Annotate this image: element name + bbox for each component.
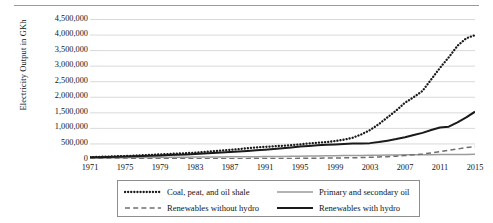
x-tick-label: 1995	[280, 163, 320, 172]
plot-svg	[90, 19, 475, 159]
legend-item[interactable]: Primary and secondary oil	[276, 183, 409, 200]
y-tick-label: 2,000,000	[28, 92, 88, 100]
legend-item-label: Primary and secondary oil	[319, 187, 409, 197]
legend-item[interactable]: Renewables without hydro	[124, 199, 259, 216]
legend-item-label: Renewables with hydro	[319, 203, 400, 213]
legend-swatch-dashed	[124, 203, 162, 213]
chart-figure: Electricity Output in GKh 4,500,0004,000…	[0, 0, 493, 223]
chart-legend: Coal, peat, and oil shalePrimary and sec…	[117, 180, 420, 217]
series-line	[90, 112, 475, 158]
x-tick-label: 1987	[210, 163, 250, 172]
y-tick-label: 3,000,000	[28, 61, 88, 69]
y-tick-label: 4,000,000	[28, 30, 88, 38]
legend-item-label: Coal, peat, and oil shale	[167, 187, 250, 197]
y-tick-label: 500,000	[28, 139, 88, 147]
legend-swatch-dotted	[124, 187, 162, 197]
legend-item[interactable]: Coal, peat, and oil shale	[124, 183, 250, 200]
y-tick-label: 0	[28, 155, 88, 163]
x-tick-label: 1971	[70, 163, 110, 172]
legend-item-label: Renewables without hydro	[167, 203, 259, 213]
legend-item[interactable]: Renewables with hydro	[276, 199, 400, 216]
y-tick-label: 4,500,000	[28, 15, 88, 23]
x-tick-label: 1999	[315, 163, 355, 172]
y-tick-label: 3,500,000	[28, 46, 88, 54]
y-tick-label: 1,500,000	[28, 108, 88, 116]
x-tick-label: 1975	[105, 163, 145, 172]
x-tick-label: 2003	[350, 163, 390, 172]
plot-area	[90, 19, 475, 159]
y-tick-label: 2,500,000	[28, 77, 88, 85]
x-tick-label: 2007	[385, 163, 425, 172]
x-tick-label: 2015	[455, 163, 493, 172]
x-tick-label: 1979	[140, 163, 180, 172]
legend-swatch-solid-thick	[276, 203, 314, 213]
legend-swatch-solid-thin	[276, 187, 314, 197]
x-tick-label: 1991	[245, 163, 285, 172]
x-tick-label: 1983	[175, 163, 215, 172]
y-axis-tick-labels: 4,500,0004,000,0003,500,0003,000,0002,50…	[25, 0, 88, 223]
x-tick-label: 2011	[420, 163, 460, 172]
gridlines	[90, 20, 475, 160]
y-tick-label: 1,000,000	[28, 123, 88, 131]
series-line	[90, 35, 475, 157]
